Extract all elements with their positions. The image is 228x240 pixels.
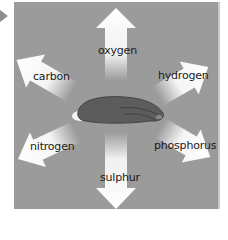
label-hydrogen: hydrogen [158,69,209,82]
dead-animal-icon [72,97,163,124]
label-oxygen: oxygen [98,44,137,57]
label-phosphorus: phosphorus [154,139,216,152]
label-carbon: carbon [33,70,70,83]
label-nitrogen: nitrogen [30,140,74,153]
label-sulphur: sulphur [100,171,140,184]
